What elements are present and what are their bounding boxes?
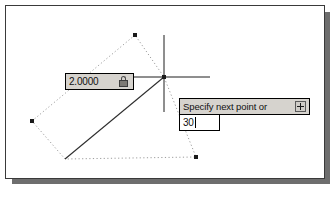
- node-left: [30, 119, 34, 123]
- reference-polygon: [32, 35, 196, 159]
- pick-point-node: [162, 75, 166, 79]
- drawing-window-frame: 2.0000 Specify next point or 30: [5, 5, 325, 179]
- screenshot-page: 2.0000 Specify next point or 30: [0, 0, 335, 203]
- distance-value: 2.0000: [69, 74, 119, 89]
- command-prompt-text: Specify next point or: [183, 99, 295, 114]
- node-top: [133, 33, 137, 37]
- geometry-layer: [5, 5, 325, 179]
- drawing-canvas[interactable]: 2.0000 Specify next point or 30: [6, 6, 324, 178]
- angle-value: 30: [183, 115, 194, 130]
- distance-input-field[interactable]: 2.0000: [65, 73, 134, 90]
- node-bottom-right: [194, 155, 198, 159]
- expand-plus-icon[interactable]: [295, 101, 306, 112]
- angle-input-field[interactable]: 30: [179, 114, 220, 131]
- text-caret: [195, 117, 196, 128]
- lock-icon: [119, 76, 128, 87]
- command-prompt-tooltip: Specify next point or: [179, 98, 310, 115]
